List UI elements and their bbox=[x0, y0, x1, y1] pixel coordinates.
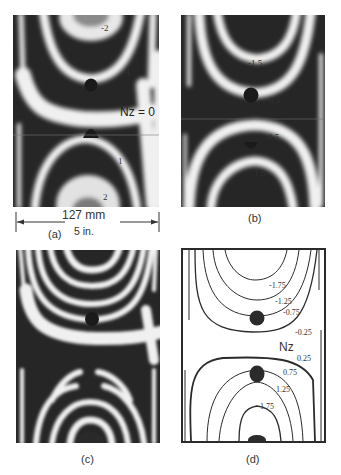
arrowhead-left-icon bbox=[17, 220, 24, 225]
hole-upper-d bbox=[250, 311, 265, 326]
dimension-metric-label: 127 mm bbox=[62, 208, 105, 222]
hole-lower-d bbox=[250, 366, 265, 383]
hole-upper-b bbox=[244, 88, 259, 103]
fringe-label-minus-1: -1 bbox=[123, 67, 131, 77]
contour-label-minus-1-75: -1.75 bbox=[269, 281, 286, 290]
hole-upper-c bbox=[85, 312, 99, 326]
contour-label-1-75: 1.75 bbox=[260, 402, 274, 411]
fringe-label-0-5: 0.5 bbox=[268, 132, 279, 142]
fringe-label-1: 1 bbox=[118, 156, 123, 166]
contour-label-minus-0-75: -0.75 bbox=[283, 308, 300, 317]
contour-label-0-25: 0.25 bbox=[297, 354, 311, 363]
contour-label-minus-0-25: -0.25 bbox=[295, 328, 312, 337]
fringe-pattern-b bbox=[181, 15, 325, 207]
arrowhead-right-icon bbox=[151, 220, 158, 225]
caption-c: (c) bbox=[81, 453, 94, 465]
caption-a: (a) bbox=[48, 228, 61, 240]
caption-d: (d) bbox=[246, 453, 259, 465]
contour-label-minus-1-25: -1.25 bbox=[275, 297, 292, 306]
fringe-label-minus-2: -2 bbox=[101, 23, 109, 33]
fringe-label-nz-0: Nz = 0 bbox=[120, 105, 155, 119]
panel-c-fringe-photo bbox=[16, 250, 160, 443]
hole-upper-a bbox=[85, 79, 98, 92]
fringe-label-minus-0-5: -0.5 bbox=[266, 95, 280, 105]
contour-label-1-25: 1.25 bbox=[276, 385, 290, 394]
fringe-label-minus-1-5: -1.5 bbox=[248, 58, 262, 68]
contour-label-nz: Nz bbox=[279, 340, 294, 354]
fringe-label-2: 2 bbox=[103, 192, 108, 202]
dimension-imperial-label: 5 in. bbox=[74, 225, 94, 237]
contour-label-0-75: 0.75 bbox=[283, 368, 297, 377]
panel-d-contour-drawing: -1.75 -1.25 -0.75 -0.25 Nz 0.25 0.75 1.2… bbox=[181, 248, 326, 443]
fringe-pattern-c bbox=[16, 250, 160, 443]
fringe-label-1-5: 1.5 bbox=[254, 168, 265, 178]
panel-b-fringe-photo: -1.5 -0.5 0.5 1.5 bbox=[181, 15, 325, 207]
caption-b: (b) bbox=[248, 212, 261, 224]
contour-lines-d bbox=[183, 250, 324, 441]
panel-a-fringe-photo: -2 -1 Nz = 0 1 2 bbox=[13, 15, 159, 207]
